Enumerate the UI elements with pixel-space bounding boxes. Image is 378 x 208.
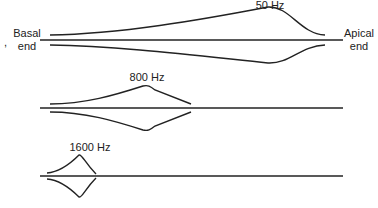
tick-mark: , bbox=[4, 36, 7, 49]
envelope-lower-1600hz bbox=[47, 178, 96, 197]
basal-label-line1: Basal bbox=[10, 27, 44, 40]
envelope-lower-50hz bbox=[50, 45, 325, 63]
envelope-upper-1600hz bbox=[47, 155, 96, 174]
basal-label: Basal end bbox=[10, 27, 44, 53]
frequency-label-50hz: 50 Hz bbox=[248, 0, 292, 12]
frequency-label-1600hz: 1600 Hz bbox=[64, 141, 116, 154]
frequency-label-800hz: 800 Hz bbox=[123, 71, 171, 84]
envelope-lower-800hz bbox=[50, 112, 191, 130]
basal-label-line2: end bbox=[10, 40, 44, 53]
apical-label: Apical end bbox=[340, 27, 378, 53]
apical-label-line2: end bbox=[340, 40, 378, 53]
apical-label-line1: Apical bbox=[340, 27, 378, 40]
traveling-wave-diagram bbox=[0, 0, 378, 208]
envelope-upper-800hz bbox=[50, 86, 191, 104]
